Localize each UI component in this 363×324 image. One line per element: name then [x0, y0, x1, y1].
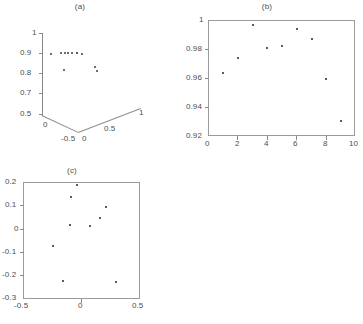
panel-a-y-ticklabel: 1 [139, 108, 144, 117]
panel-b-x-ticklabel: 4 [264, 139, 269, 148]
panel-a-z-tick [39, 73, 42, 74]
data-point [340, 120, 342, 122]
panel-a-z-ticklabel: 0.9 [20, 48, 31, 57]
panel-a-x-ticklabel: -0.5 [61, 134, 75, 143]
panel-a-x-ticklabel: 0 [43, 120, 48, 129]
panel-b-y-tick [205, 49, 209, 50]
panel-a-z-tick [39, 114, 42, 115]
panel-c-y-tick [20, 275, 24, 276]
panel-a-origin-ticklabel: 0 [82, 134, 87, 143]
panel-b-x-ticklabel: 0 [205, 139, 210, 148]
panel-b-plot-box [208, 20, 355, 136]
data-point [64, 52, 66, 54]
panel-b-x-ticklabel: 10 [349, 139, 358, 148]
panel-b-x-tick [326, 136, 327, 140]
data-point [70, 196, 72, 198]
data-point [115, 281, 117, 283]
panel-c-x-ticklabel: 0.5 [132, 301, 143, 310]
panel-a-z-tick [39, 93, 42, 94]
data-point [94, 66, 96, 68]
data-point [311, 38, 313, 40]
panel-a-z-ticklabel: 0.5 [20, 109, 31, 118]
panel-b-scatter: (b) 1 0.98 0.96 0.94 0.92 0 2 4 6 8 10 [185, 0, 363, 164]
panel-a-3d-scatter: (a) 1 0.9 0.8 0.7 0.5 0 -0.5 0 0.5 1 [0, 0, 185, 164]
panel-c-plot-box [23, 182, 140, 299]
data-point [71, 52, 73, 54]
panel-b-y-ticklabel: 0.98 [186, 44, 202, 53]
data-point [67, 52, 69, 54]
data-point [89, 225, 91, 227]
panel-a-z-ticklabel: 0.7 [20, 88, 31, 97]
panel-c-y-ticklabel: 0.1 [5, 200, 16, 209]
panel-a-y-ticklabel: 0.5 [104, 124, 115, 133]
panel-a-z-tick [39, 53, 42, 54]
panel-c-title: (c) [42, 166, 102, 175]
data-point [96, 70, 98, 72]
panel-a-title: (a) [50, 2, 110, 11]
panel-b-y-ticklabel: 1 [199, 15, 204, 24]
panel-c-y-tick [20, 252, 24, 253]
panel-b-x-tick [296, 136, 297, 140]
panel-c-y-ticklabel: 0 [14, 224, 19, 233]
data-point [63, 69, 65, 71]
panel-c-scatter: (c) 0.2 0.1 0 -0.1 -0.2 -0.3 -0.5 0 0.5 [0, 164, 200, 324]
panel-c-x-tick [81, 299, 82, 303]
panel-a-z-axis [42, 33, 43, 116]
panel-b-y-ticklabel: 0.96 [186, 73, 202, 82]
data-point [252, 24, 254, 26]
figure-canvas: (a) 1 0.9 0.8 0.7 0.5 0 -0.5 0 0.5 1 [0, 0, 363, 324]
panel-c-y-tick [20, 229, 24, 230]
data-point [69, 224, 71, 226]
panel-b-x-ticklabel: 6 [293, 139, 298, 148]
panel-b-x-tick [237, 136, 238, 140]
data-point [60, 52, 62, 54]
panel-a-z-ticklabel: 0.8 [20, 68, 31, 77]
panel-b-x-ticklabel: 8 [323, 139, 328, 148]
panel-b-y-ticklabel: 0.94 [186, 102, 202, 111]
data-point [222, 72, 224, 74]
panel-a-z-ticklabel: 1 [32, 28, 37, 37]
panel-c-x-ticklabel: -0.5 [14, 301, 28, 310]
panel-b-y-tick [205, 78, 209, 79]
panel-c-y-tick [20, 205, 24, 206]
data-point [62, 280, 64, 282]
panel-b-title: (b) [237, 2, 297, 11]
data-point [266, 47, 268, 49]
data-point [52, 245, 54, 247]
data-point [76, 52, 78, 54]
panel-b-x-ticklabel: 2 [235, 139, 240, 148]
panel-c-y-ticklabel: -0.1 [2, 247, 16, 256]
data-point [76, 184, 78, 186]
panel-b-y-ticklabel: 0.92 [186, 131, 202, 140]
panel-c-y-ticklabel: -0.2 [2, 270, 16, 279]
data-point [325, 78, 327, 80]
data-point [81, 53, 83, 55]
panel-c-y-ticklabel: 0.2 [5, 177, 16, 186]
data-point [281, 45, 283, 47]
panel-b-x-tick [267, 136, 268, 140]
data-point [296, 28, 298, 30]
panel-a-z-tick [39, 33, 42, 34]
data-point [50, 53, 52, 55]
data-point [237, 57, 239, 59]
panel-b-y-tick [205, 107, 209, 108]
data-point [105, 206, 107, 208]
data-point [99, 217, 101, 219]
